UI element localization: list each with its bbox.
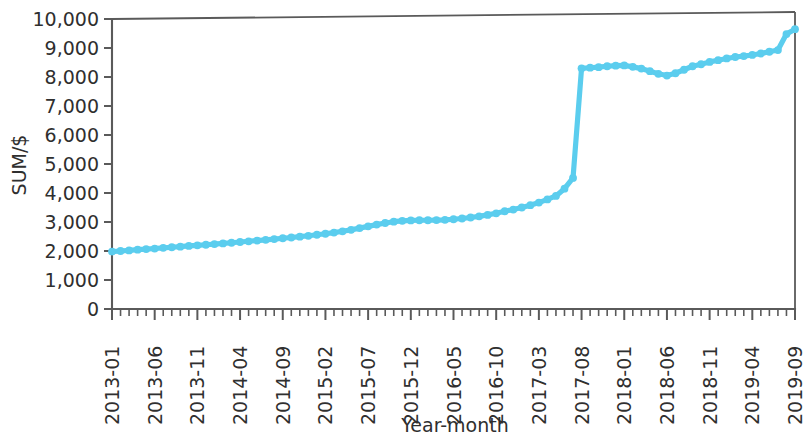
data-point bbox=[697, 60, 705, 68]
data-point bbox=[185, 242, 193, 250]
data-point bbox=[757, 50, 765, 58]
data-point bbox=[381, 219, 389, 227]
data-point bbox=[706, 58, 714, 66]
data-point bbox=[689, 62, 697, 70]
data-point bbox=[304, 232, 312, 240]
data-point bbox=[791, 25, 799, 33]
data-point bbox=[236, 238, 244, 246]
x-tick-label: 2015-02 bbox=[314, 346, 336, 425]
x-tick-label: 2019-04 bbox=[741, 346, 763, 425]
data-point bbox=[228, 239, 236, 247]
data-point bbox=[544, 195, 552, 203]
x-tick-label: 2015-07 bbox=[357, 346, 379, 425]
data-point bbox=[620, 62, 628, 70]
data-point bbox=[552, 192, 560, 200]
data-point bbox=[484, 211, 492, 219]
x-tick-label: 2014-09 bbox=[272, 346, 294, 425]
x-tick-label: 2013-01 bbox=[101, 346, 123, 425]
data-point bbox=[270, 235, 278, 243]
data-point bbox=[680, 66, 688, 74]
data-point bbox=[637, 65, 645, 73]
data-point bbox=[595, 63, 603, 71]
y-axis-tick-labels: 01,0002,0003,0004,0005,0006,0007,0008,00… bbox=[33, 8, 99, 320]
data-point bbox=[287, 234, 295, 242]
data-point bbox=[151, 245, 159, 253]
data-point bbox=[603, 62, 611, 70]
x-tick-label: 2018-11 bbox=[699, 346, 721, 425]
data-point bbox=[723, 55, 731, 63]
x-tick-label: 2019-09 bbox=[784, 346, 806, 425]
x-axis-ticks bbox=[112, 309, 795, 320]
data-point-markers bbox=[108, 25, 799, 255]
data-point bbox=[714, 56, 722, 64]
data-point bbox=[561, 185, 569, 193]
y-tick-label: 5,000 bbox=[45, 153, 99, 175]
x-axis-title: Year-month bbox=[400, 414, 509, 436]
data-point bbox=[433, 216, 441, 224]
data-point bbox=[253, 237, 261, 245]
data-point bbox=[330, 229, 338, 237]
data-point bbox=[450, 215, 458, 223]
data-point bbox=[663, 72, 671, 80]
data-point bbox=[578, 64, 586, 72]
data-point bbox=[629, 63, 637, 71]
data-point bbox=[168, 243, 176, 251]
data-point bbox=[117, 247, 125, 255]
data-point bbox=[364, 222, 372, 230]
data-point bbox=[339, 227, 347, 235]
data-point bbox=[262, 236, 270, 244]
y-tick-label: 6,000 bbox=[45, 124, 99, 146]
data-point bbox=[245, 237, 253, 245]
data-point bbox=[740, 52, 748, 60]
data-point bbox=[125, 247, 133, 255]
data-point bbox=[467, 214, 475, 222]
data-point bbox=[774, 46, 782, 54]
data-point bbox=[142, 245, 150, 253]
x-tick-label: 2013-06 bbox=[144, 346, 166, 425]
data-point bbox=[646, 67, 654, 75]
data-point bbox=[415, 216, 423, 224]
y-tick-label: 3,000 bbox=[45, 211, 99, 233]
y-tick-label: 4,000 bbox=[45, 182, 99, 204]
x-tick-label: 2018-06 bbox=[656, 346, 678, 425]
y-tick-label: 8,000 bbox=[45, 66, 99, 88]
data-point bbox=[322, 230, 330, 238]
x-tick-label: 2017-08 bbox=[571, 346, 593, 425]
y-tick-label: 7,000 bbox=[45, 95, 99, 117]
data-point bbox=[356, 224, 364, 232]
plot-frame bbox=[112, 12, 795, 309]
data-point bbox=[193, 241, 201, 249]
y-tick-label: 2,000 bbox=[45, 240, 99, 262]
data-point bbox=[108, 248, 116, 256]
data-point bbox=[526, 201, 534, 209]
data-point bbox=[407, 217, 415, 225]
data-point bbox=[424, 216, 432, 224]
data-point bbox=[313, 231, 321, 239]
data-point bbox=[475, 212, 483, 220]
data-point bbox=[535, 199, 543, 207]
x-tick-label: 2014-04 bbox=[229, 346, 251, 425]
data-point bbox=[783, 30, 791, 38]
data-point bbox=[279, 234, 287, 242]
data-point bbox=[219, 240, 227, 248]
data-point bbox=[390, 218, 398, 226]
y-axis-ticks bbox=[104, 19, 112, 309]
data-point bbox=[398, 217, 406, 225]
data-point bbox=[296, 233, 304, 241]
data-point bbox=[373, 221, 381, 229]
x-tick-label: 2013-11 bbox=[186, 346, 208, 425]
data-point bbox=[731, 53, 739, 61]
data-point bbox=[347, 226, 355, 234]
y-tick-label: 9,000 bbox=[45, 37, 99, 59]
data-point bbox=[586, 64, 594, 72]
y-tick-label: 1,000 bbox=[45, 269, 99, 291]
data-point bbox=[492, 209, 500, 217]
data-point bbox=[159, 244, 167, 252]
y-tick-label: 10,000 bbox=[33, 8, 99, 30]
data-point bbox=[441, 216, 449, 224]
data-point bbox=[748, 51, 756, 59]
line-chart: 01,0002,0003,0004,0005,0006,0007,0008,00… bbox=[0, 0, 809, 438]
chart-container: 01,0002,0003,0004,0005,0006,0007,0008,00… bbox=[0, 0, 809, 438]
data-point bbox=[765, 48, 773, 56]
data-point bbox=[501, 207, 509, 215]
